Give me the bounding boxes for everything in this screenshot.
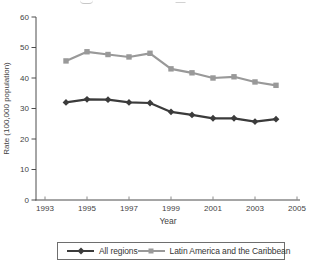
y-tick-label: 0 [25,196,30,205]
x-tick-label: 2005 [288,204,306,213]
data-point-diamond [252,118,259,125]
data-point-square [84,49,89,54]
legend-item-latin-america: Latin America and the Caribbean [138,246,291,256]
data-point-square [63,58,68,63]
data-point-square [189,70,194,75]
y-axis-title: Rate (100,000 population) [2,62,11,155]
y-tick-label: 10 [20,165,29,174]
data-point-square [210,75,215,80]
data-point-square [126,54,131,59]
y-tick-label: 40 [20,74,29,83]
x-tick-label: 2001 [204,204,222,213]
data-point-square [273,83,278,88]
data-point-square [252,79,257,84]
legend-label-latin-america: Latin America and the Caribbean [170,246,291,256]
chart-plot-area: 0102030405060199319951997199920012003200… [0,0,318,238]
legend-label-all-regions: All regions [99,246,138,256]
data-point-diamond [210,115,217,122]
legend-item-all-regions: All regions [67,246,138,256]
data-point-diamond [84,96,91,103]
latin-america-line-marker-icon [138,247,165,255]
chart-panel: 0102030405060199319951997199920012003200… [0,0,318,271]
data-point-diamond [126,99,133,106]
data-point-diamond [231,115,238,122]
data-point-square [147,51,152,56]
x-tick-label: 1999 [162,204,180,213]
x-tick-label: 1993 [36,204,54,213]
data-point-diamond [189,112,196,119]
legend: All regions Latin America and the Caribb… [57,242,285,260]
x-tick-label: 2003 [246,204,264,213]
x-tick-label: 1997 [120,204,138,213]
data-point-diamond [105,96,112,103]
y-tick-label: 60 [20,13,29,22]
x-tick-label: 1995 [78,204,96,213]
y-tick-label: 30 [20,104,29,113]
x-axis-title: Year [159,216,176,226]
data-point-diamond [168,108,175,115]
data-point-diamond [273,116,280,123]
data-point-square [105,52,110,57]
y-tick-label: 20 [20,135,29,144]
y-tick-label: 50 [20,43,29,52]
data-point-square [168,66,173,71]
data-point-diamond [147,100,154,107]
all-regions-line-marker-icon [67,247,94,255]
data-point-diamond [63,99,70,106]
data-point-square [231,74,236,79]
